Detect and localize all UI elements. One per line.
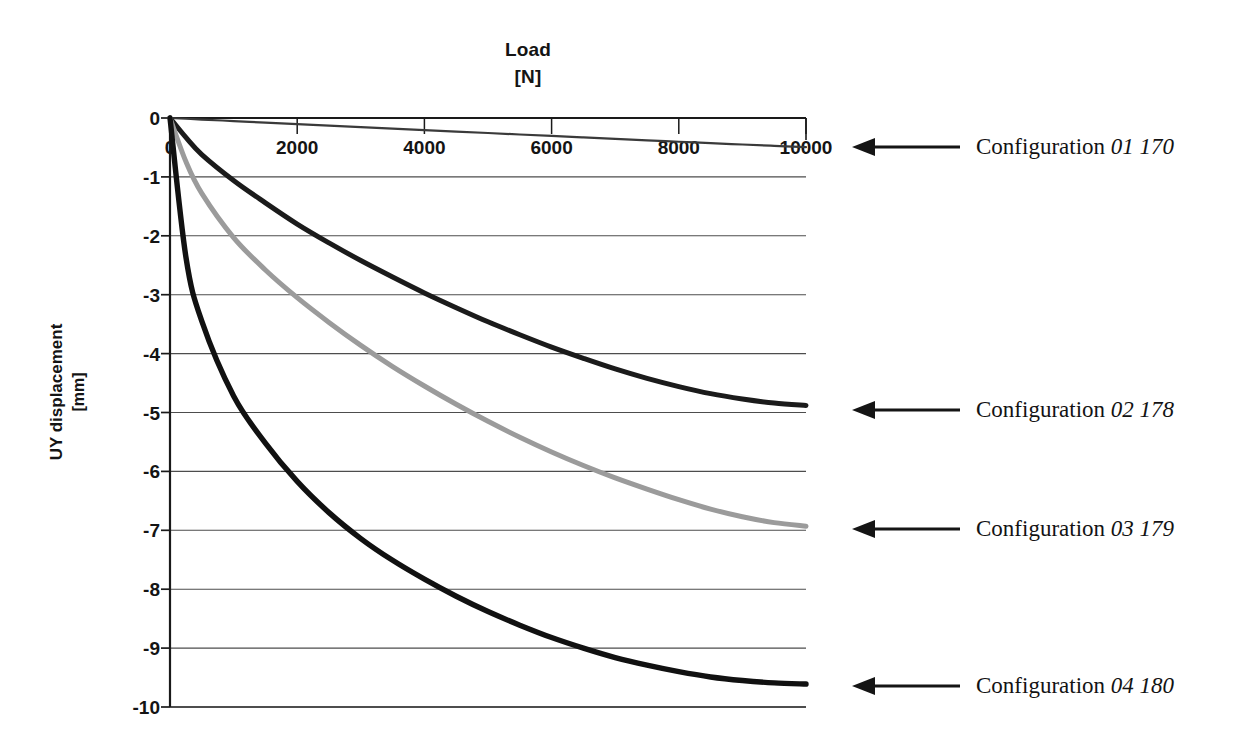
callout-caption: Configuration 02 178 (976, 397, 1174, 423)
y-tick-label: -7 (143, 521, 160, 540)
curve-1 (170, 118, 806, 147)
y-axis-title-text: UY displacement (47, 324, 66, 461)
callout-caption: Configuration 04 180 (976, 673, 1174, 699)
callout-code: 02 178 (1111, 397, 1174, 422)
curve-2 (170, 118, 806, 405)
callout-caption: Configuration 01 170 (976, 134, 1174, 160)
arrow-left-icon (852, 518, 962, 540)
y-tick-label: -3 (143, 285, 160, 304)
data-curves (170, 118, 806, 684)
callout-prefix: Configuration (976, 516, 1111, 541)
callout-caption: Configuration 03 179 (976, 516, 1174, 542)
callout-code: 04 180 (1111, 673, 1174, 698)
callout-3: Configuration 03 179 (852, 514, 1174, 544)
y-tick-label: -8 (143, 580, 160, 599)
chart-title: Load [N] (398, 36, 658, 90)
y-tick-label: -5 (143, 403, 160, 422)
arrow-left-icon (852, 399, 962, 421)
callout-prefix: Configuration (976, 673, 1111, 698)
callout-4: Configuration 04 180 (852, 671, 1174, 701)
callout-prefix: Configuration (976, 134, 1111, 159)
gridlines (170, 118, 806, 707)
chart-title-unit: [N] (398, 63, 658, 90)
y-tick-label: -6 (143, 462, 160, 481)
callout-2: Configuration 02 178 (852, 395, 1174, 425)
plot-svg (170, 118, 806, 707)
y-tick-label: -2 (143, 226, 160, 245)
chart-figure: Load [N] UY displacement [mm] 0-1-2-3-4-… (0, 0, 1239, 754)
callout-code: 03 179 (1111, 516, 1174, 541)
y-tick-label: 0 (149, 109, 160, 128)
y-tick-label: -1 (143, 167, 160, 186)
y-tick-label: -10 (133, 698, 160, 717)
callout-code: 01 170 (1111, 134, 1174, 159)
arrow-left-icon (852, 675, 962, 697)
arrow-left-icon (852, 136, 962, 158)
plot-area (170, 118, 806, 707)
y-axis-title: UY displacement [mm] (46, 262, 90, 522)
callout-1: Configuration 01 170 (852, 132, 1174, 162)
chart-title-text: Load (398, 36, 658, 63)
callout-prefix: Configuration (976, 397, 1111, 422)
y-tick-label: -4 (143, 344, 160, 363)
y-tick-label: -9 (143, 639, 160, 658)
y-axis-tick-labels: 0-1-2-3-4-5-6-7-8-9-10 (86, 118, 160, 707)
